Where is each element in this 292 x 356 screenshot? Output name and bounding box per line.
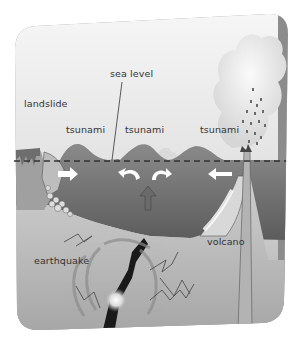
label-tsunami-right: tsunami xyxy=(200,124,239,135)
tsunami-diagram xyxy=(0,0,292,356)
label-tsunami-left: tsunami xyxy=(66,124,105,135)
label-landslide: landslide xyxy=(24,98,68,109)
label-sea-level: sea level xyxy=(110,68,153,79)
label-earthquake: earthquake xyxy=(34,255,89,266)
label-volcano: volcano xyxy=(207,236,245,247)
label-tsunami-middle: tsunami xyxy=(125,124,164,135)
earthquake-focus xyxy=(104,288,128,312)
